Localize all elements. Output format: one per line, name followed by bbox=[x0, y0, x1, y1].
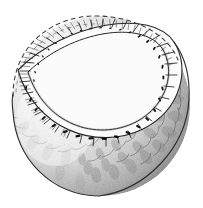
blastosphere-illustration bbox=[0, 0, 203, 208]
figure-root: Blastosphere (hollow blastula) in sectio… bbox=[0, 0, 203, 208]
